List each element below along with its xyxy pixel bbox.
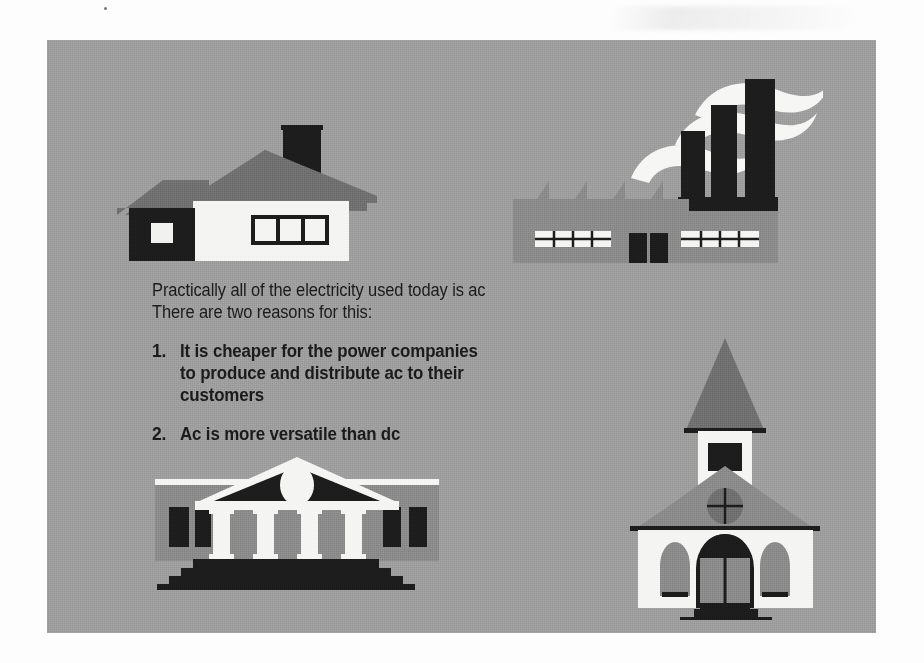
- church-illustration: [612, 330, 842, 620]
- house-illustration: [105, 123, 390, 278]
- government-building-illustration: [147, 455, 447, 590]
- figure-panel: Practically all of the electricity used …: [47, 40, 876, 633]
- factory-illustration: [513, 59, 823, 289]
- scan-artifact-smudge: [610, 6, 860, 30]
- reason-1-line-2: to produce and distribute ac to their: [180, 362, 578, 384]
- church-icon: [612, 330, 842, 620]
- scan-artifact-speck: [104, 7, 107, 10]
- reason-1-number: 1.: [152, 340, 180, 406]
- caption-lede-line-2: There are two reasons for this:: [152, 301, 566, 323]
- reason-list-item-2: 2. Ac is more versatile than dc: [152, 423, 592, 445]
- reason-2-body: Ac is more versatile than dc: [180, 423, 578, 445]
- caption-lede-line-1: Practically all of the electricity used …: [152, 279, 566, 301]
- reason-1-body: It is cheaper for the power companies to…: [180, 340, 578, 406]
- reason-2-number: 2.: [152, 423, 180, 445]
- government-building-icon: [147, 455, 447, 590]
- reason-2-line-1: Ac is more versatile than dc: [180, 423, 578, 445]
- house-icon: [105, 123, 390, 278]
- caption-block: Practically all of the electricity used …: [152, 279, 592, 445]
- reason-1-line-3: customers: [180, 384, 578, 406]
- reason-1-line-1: It is cheaper for the power companies: [180, 340, 578, 362]
- reason-list-item-1: 1. It is cheaper for the power companies…: [152, 340, 592, 406]
- scan-page: Practically all of the electricity used …: [0, 0, 924, 663]
- factory-icon: [513, 59, 823, 289]
